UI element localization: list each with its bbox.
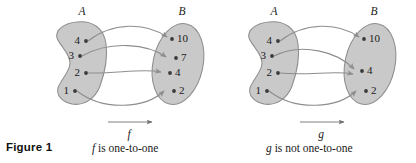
element-dot-a1-left xyxy=(73,89,77,93)
element-dot-b2-right xyxy=(364,89,368,93)
set-a-label-right: A xyxy=(269,5,278,17)
element-label-b2-left: 2 xyxy=(179,84,185,96)
diagram-right: A B 4 3 2 1 10 4 2 g xyxy=(249,5,403,141)
diagram-left: A B 4 3 2 1 10 7 4 2 xyxy=(57,5,211,141)
element-label-b7-left: 7 xyxy=(181,51,187,63)
element-label-b2-right: 2 xyxy=(371,84,377,96)
element-label-b4-left: 4 xyxy=(175,66,181,78)
element-dot-b4-left xyxy=(168,71,172,75)
function-label-left: f xyxy=(127,128,132,141)
caption-left: f is one-to-one xyxy=(92,142,158,154)
set-b-label-left: B xyxy=(178,5,185,17)
function-label-right: g xyxy=(318,128,324,141)
figure-diagram-svg: A B 4 3 2 1 10 7 4 2 xyxy=(0,0,416,163)
element-dot-b4-right xyxy=(360,69,364,73)
element-dot-a2-left xyxy=(84,71,88,75)
element-label-b4-right: 4 xyxy=(367,64,373,76)
caption-right: g is not one-to-one xyxy=(266,142,353,154)
caption-right-text: is not one-to-one xyxy=(272,142,353,154)
element-dot-b2-left xyxy=(172,89,176,93)
set-a-label-left: A xyxy=(77,5,86,17)
element-label-a4-left: 4 xyxy=(75,34,81,46)
caption-left-text: is one-to-one xyxy=(95,142,158,154)
element-label-a2-left: 2 xyxy=(75,66,81,78)
element-dot-a1-right xyxy=(265,89,269,93)
element-dot-a3-right xyxy=(270,54,274,58)
element-label-a3-left: 3 xyxy=(69,49,75,61)
element-dot-b7-left xyxy=(174,56,178,60)
element-label-b10-right: 10 xyxy=(369,32,381,44)
element-dot-a4-right xyxy=(276,39,280,43)
set-b-label-right: B xyxy=(370,5,377,17)
figure-canvas: A B 4 3 2 1 10 7 4 2 xyxy=(0,0,416,163)
figure-number-label: Figure 1 xyxy=(6,141,52,153)
element-dot-b10-right xyxy=(362,37,366,41)
element-dot-a3-left xyxy=(78,54,82,58)
element-label-a1-right: 1 xyxy=(256,84,262,96)
element-label-b10-left: 10 xyxy=(177,32,189,44)
element-label-a3-right: 3 xyxy=(261,49,267,61)
element-label-a4-right: 4 xyxy=(267,34,273,46)
element-dot-a2-right xyxy=(276,71,280,75)
element-label-a1-left: 1 xyxy=(64,84,70,96)
element-dot-a4-left xyxy=(84,39,88,43)
element-dot-b10-left xyxy=(170,37,174,41)
element-label-a2-right: 2 xyxy=(267,66,273,78)
